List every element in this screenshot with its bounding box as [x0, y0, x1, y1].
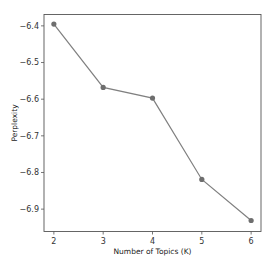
x-axis-ticks: 23456	[51, 232, 253, 246]
perplexity-line-chart: −6.4−6.5−6.6−6.7−6.8−6.9 23456 Number of…	[0, 0, 274, 264]
plot-border	[44, 15, 261, 232]
x-tick-label: 6	[249, 237, 254, 246]
y-axis-ticks: −6.4−6.5−6.6−6.7−6.8−6.9	[20, 22, 44, 214]
data-point-marker	[249, 218, 254, 223]
x-tick-label: 3	[101, 237, 106, 246]
y-tick-label: −6.4	[20, 22, 39, 31]
x-tick-label: 2	[51, 237, 56, 246]
data-point-marker	[199, 177, 204, 182]
series-line	[54, 24, 251, 220]
y-tick-label: −6.9	[20, 205, 39, 214]
y-tick-label: −6.6	[20, 95, 39, 104]
data-point-marker	[150, 95, 155, 100]
x-axis-label: Number of Topics (K)	[113, 247, 191, 256]
y-tick-label: −6.7	[20, 132, 39, 141]
y-tick-label: −6.8	[20, 168, 39, 177]
data-series	[51, 21, 253, 223]
data-point-marker	[101, 85, 106, 90]
x-tick-label: 4	[150, 237, 155, 246]
plot-frame	[44, 15, 261, 232]
y-axis-label: Perplexity	[10, 104, 19, 142]
data-point-marker	[51, 21, 56, 26]
x-tick-label: 5	[199, 237, 204, 246]
y-tick-label: −6.5	[20, 58, 39, 67]
